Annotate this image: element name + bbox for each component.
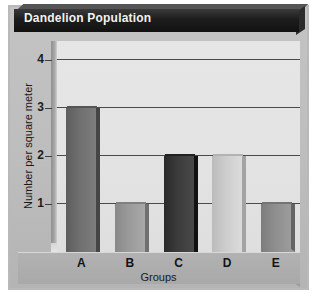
bar-A[interactable] [66,108,96,252]
bar-side-face [194,156,198,252]
bar-side-face [291,204,295,252]
y-tick-label-3: 3 [26,101,44,113]
bar-top-face [262,202,292,204]
bar-face [66,108,96,252]
x-axis-label-E: E [264,256,288,270]
bar-top-face [165,154,195,156]
bar-top-face [213,154,243,156]
y-tick-3 [45,108,52,109]
bar-E[interactable] [261,204,291,252]
bar-top-face [67,106,97,108]
bar-side-face [96,108,100,252]
bar-C[interactable] [164,156,194,252]
y-tick-label-1: 1 [26,197,44,209]
y-tick-label-4: 4 [26,53,44,65]
plot-area [57,41,300,252]
x-axis-title: Groups [0,271,317,283]
chart-title: Dandelion Population [24,11,151,25]
bar-face [261,204,291,252]
gridline-4 [57,59,300,60]
bar-face [164,156,194,252]
bar-face [212,156,242,252]
floor-plate-top-edge [18,252,300,253]
bar-D[interactable] [212,156,242,252]
bar-B[interactable] [115,204,145,252]
bar-side-face [145,204,149,252]
bar-side-face [242,156,246,252]
y-tick-4 [45,60,52,61]
x-axis-label-D: D [215,256,239,270]
bar-face [115,204,145,252]
y-tick-1 [45,204,52,205]
x-axis-label-A: A [69,256,93,270]
x-axis-label-B: B [118,256,142,270]
x-axis-label-C: C [167,256,191,270]
bar-top-face [116,202,146,204]
y-tick-2 [45,156,52,157]
chart-figure: Dandelion Population Number per square m… [0,0,317,298]
y-tick-label-2: 2 [26,149,44,161]
